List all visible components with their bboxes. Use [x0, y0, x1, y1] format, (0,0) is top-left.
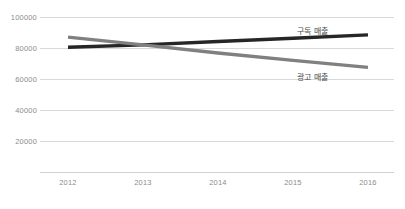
line-chart: 100000 80000 60000 40000 20000 2012 2013…	[0, 0, 405, 209]
series-label-advertising: 광고 매출	[297, 71, 328, 82]
plot-area	[0, 0, 405, 209]
series-label-subscription: 구독 매출	[297, 25, 328, 36]
